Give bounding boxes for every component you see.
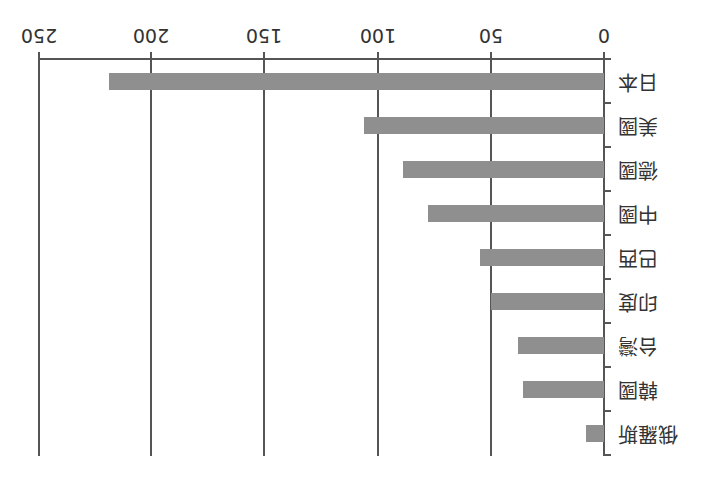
- y-tick: [604, 455, 611, 457]
- x-tick: [264, 52, 266, 60]
- gridline-250: [39, 59, 41, 456]
- y-tick: [604, 103, 611, 105]
- bar: [518, 337, 604, 354]
- x-tick-label: 100: [348, 25, 408, 47]
- category-label: 俄羅斯: [618, 422, 718, 446]
- bar: [109, 73, 604, 90]
- gridline-150: [264, 59, 266, 456]
- y-tick: [604, 411, 611, 413]
- bar: [523, 381, 604, 398]
- bar: [480, 249, 604, 266]
- y-tick: [604, 235, 611, 237]
- bar: [586, 425, 604, 442]
- x-tick-label: 50: [461, 25, 521, 47]
- category-label: 印度: [618, 290, 718, 314]
- category-label: 巴西: [618, 246, 718, 270]
- gridline-200: [151, 59, 153, 456]
- category-label: 德國: [618, 158, 718, 182]
- x-tick-label: 150: [234, 25, 294, 47]
- x-tick-label: 250: [9, 25, 69, 47]
- x-tick: [151, 52, 153, 60]
- bar: [403, 161, 604, 178]
- x-tick-label: 0: [574, 25, 634, 47]
- x-tick: [39, 52, 41, 60]
- category-label: 美國: [618, 114, 718, 138]
- y-tick: [604, 279, 611, 281]
- y-tick: [604, 59, 611, 61]
- chart: 0 50 100 150 200 250 俄羅斯韓國台灣印度巴西中國德國美國日本: [0, 0, 721, 481]
- category-label: 台灣: [618, 334, 718, 358]
- x-tick-label: 200: [121, 25, 181, 47]
- category-label: 中國: [618, 202, 718, 226]
- bar: [364, 117, 604, 134]
- y-tick: [604, 323, 611, 325]
- x-axis: [39, 58, 605, 60]
- x-tick: [491, 52, 493, 60]
- bar: [491, 293, 604, 310]
- y-tick: [604, 147, 611, 149]
- category-label: 日本: [618, 70, 718, 94]
- bar: [428, 205, 604, 222]
- x-tick: [378, 52, 380, 60]
- category-label: 韓國: [618, 378, 718, 402]
- y-tick: [604, 191, 611, 193]
- y-tick: [604, 367, 611, 369]
